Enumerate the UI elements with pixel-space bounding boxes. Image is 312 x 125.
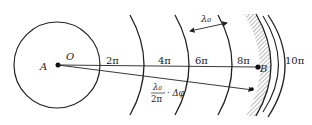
wavefront-diagram: O A 2π 4π 6π 8π 10π λ₀ B λ₀ 2π · Δφ	[0, 0, 312, 125]
fraction-suffix: · Δφ	[167, 88, 185, 98]
label-phase-4pi: 4π	[158, 55, 171, 66]
label-phase-2pi: 2π	[106, 55, 119, 66]
wavefront-4pi	[175, 15, 189, 115]
label-phase-10pi: 10π	[285, 55, 305, 66]
path-difference-fraction: λ₀ 2π · Δφ	[151, 82, 185, 104]
wavefront-6pi	[218, 15, 232, 115]
label-phase-6pi: 6π	[195, 55, 208, 66]
target-point-b2	[250, 87, 254, 91]
label-wavelength: λ₀	[200, 13, 211, 24]
label-phase-8pi: 8π	[237, 55, 250, 66]
label-point-a: A	[39, 61, 47, 72]
wavefront-2pi	[130, 15, 144, 115]
label-point-b: B	[259, 63, 267, 74]
wavelength-dimension-arrow	[190, 23, 227, 31]
label-center-o: O	[66, 51, 74, 62]
fraction-denominator: 2π	[151, 94, 162, 104]
fraction-numerator: λ₀	[152, 82, 162, 92]
